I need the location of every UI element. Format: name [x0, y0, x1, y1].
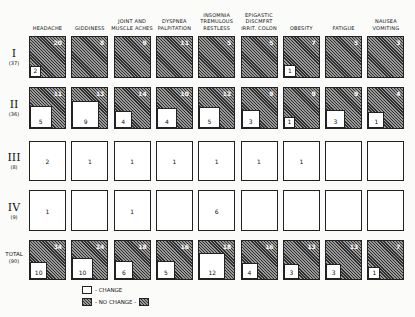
- no-change-count: 16: [181, 243, 189, 250]
- change-box: 5: [30, 106, 52, 128]
- no-change-count: 10: [181, 90, 189, 97]
- column-header: NAUSEAVOMITING: [364, 0, 408, 31]
- legend-swatch-hatched: [82, 298, 92, 306]
- cell-box: [367, 141, 404, 181]
- no-change-count: 13: [307, 243, 315, 250]
- cell-box: 8: [71, 36, 108, 78]
- cell-box: [325, 141, 362, 181]
- column-header: OBESITY: [279, 0, 323, 31]
- row-label: IV(9): [0, 202, 28, 220]
- column-header-line: DYSPNEA: [158, 18, 192, 25]
- column-header: EPIGASTICDISCMFRTIRRIT. COLON: [237, 0, 281, 31]
- cell-box: [325, 190, 362, 231]
- change-box: 5: [157, 261, 175, 279]
- column-header-line: GIDDINESS: [75, 25, 105, 32]
- cell-box: 5: [325, 36, 362, 78]
- cell-box: 1812: [198, 240, 235, 280]
- column-header-line: TREMULOUS: [200, 18, 233, 25]
- cell-box: 144: [114, 87, 151, 129]
- change-count: 2: [30, 158, 65, 165]
- no-change-count: 4: [396, 90, 400, 97]
- row-label-roman: IV: [0, 202, 28, 214]
- no-change-count: 18: [223, 243, 231, 250]
- cell-box: [283, 190, 320, 231]
- column-header-line: RESTLESS: [200, 25, 233, 32]
- legend-label: - CHANGE: [95, 287, 122, 293]
- no-change-count: 18: [138, 243, 146, 250]
- legend-change: - CHANGE: [82, 286, 122, 294]
- change-box: 10: [72, 258, 93, 279]
- cell-box: 9: [114, 36, 151, 78]
- change-count: 1: [30, 207, 65, 214]
- row-label: TOTAL(90): [0, 251, 28, 264]
- row-label-count: (37): [0, 60, 28, 66]
- change-box: 3: [284, 264, 299, 279]
- legend-swatch-white: [82, 286, 92, 294]
- no-change-count: 11: [54, 90, 62, 97]
- no-change-count: 13: [96, 90, 104, 97]
- change-box: 4: [242, 263, 258, 279]
- no-change-count: 9: [354, 90, 358, 97]
- no-change-count: 34: [54, 243, 62, 250]
- no-change-count: 14: [138, 90, 146, 97]
- no-change-count: 9: [312, 90, 316, 97]
- cell-box: 1: [241, 141, 278, 181]
- no-change-count: 11: [181, 39, 189, 46]
- change-count: 1: [157, 158, 192, 165]
- cell-box: 1: [29, 190, 66, 231]
- change-box: 3: [326, 110, 344, 128]
- change-count: 1: [242, 158, 277, 165]
- column-header-line: MUSCLE ACHES: [111, 25, 153, 32]
- change-box: 1: [368, 267, 380, 279]
- cell-box: 125: [198, 87, 235, 129]
- no-change-count: 8: [100, 39, 104, 46]
- cell-box: 93: [241, 87, 278, 129]
- row-label-roman: III: [0, 152, 28, 164]
- change-box: 1: [284, 117, 295, 128]
- change-count: 1: [115, 158, 150, 165]
- change-box: 12: [199, 253, 225, 279]
- no-change-count: 12: [223, 90, 231, 97]
- column-header-line: FATIGUE: [333, 25, 355, 32]
- column-header: HEADACHE: [26, 0, 70, 31]
- column-header-line: HEADACHE: [33, 25, 62, 32]
- column-header-line: VOMITING: [372, 25, 399, 32]
- change-count: 1: [72, 158, 107, 165]
- cell-box: 2: [29, 141, 66, 181]
- cell-box: 139: [71, 87, 108, 129]
- change-box: 4: [115, 111, 132, 128]
- cell-box: [241, 190, 278, 231]
- row-label-count: (36): [0, 111, 28, 117]
- cell-box: 71: [367, 240, 404, 280]
- change-count: 1: [199, 158, 234, 165]
- row-label-roman: TOTAL: [0, 251, 28, 258]
- column-header-line: DISCMFRT: [241, 18, 277, 25]
- column-header: GIDDINESS: [68, 0, 112, 31]
- no-change-count: 16: [265, 243, 273, 250]
- cell-box: [367, 190, 404, 231]
- cell-box: 1: [283, 141, 320, 181]
- no-change-count: 9: [142, 39, 146, 46]
- cell-box: 1: [198, 141, 235, 181]
- no-change-count: 20: [54, 39, 62, 46]
- row-label-count: (9): [0, 214, 28, 220]
- no-change-count: 9: [269, 90, 273, 97]
- no-change-count: 7: [396, 243, 400, 250]
- change-box: 4: [157, 108, 177, 128]
- cell-box: [71, 190, 108, 231]
- change-box: 2: [30, 66, 41, 77]
- cell-box: 1: [114, 141, 151, 181]
- change-box: 9: [72, 101, 99, 128]
- cell-box: 91: [283, 87, 320, 129]
- no-change-count: 24: [96, 243, 104, 250]
- change-count: 1: [284, 158, 319, 165]
- cell-box: 71: [283, 36, 320, 78]
- cell-box: 165: [156, 240, 193, 280]
- cell-box: 202: [29, 36, 66, 78]
- no-change-count: 13: [350, 243, 358, 250]
- change-box: 1: [284, 65, 296, 77]
- column-header-line: PALPITATION: [158, 25, 192, 32]
- legend-no-change: - NO CHANGE -: [82, 298, 149, 306]
- column-header-line: IRRIT. COLON: [241, 25, 277, 32]
- change-count: 1: [115, 207, 150, 214]
